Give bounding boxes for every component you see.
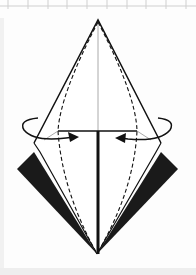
- diagram-page: [0, 0, 196, 275]
- top-grid-ruler: [0, 0, 196, 9]
- origami-diagram: [0, 0, 196, 275]
